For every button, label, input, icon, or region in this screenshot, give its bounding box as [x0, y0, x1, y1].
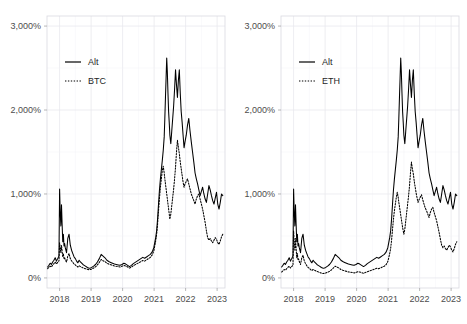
- series-line-Alt: [281, 58, 456, 268]
- y-tick-label-0%: 0%: [28, 273, 41, 283]
- y-axis: 0%1,000%2,000%3,000%: [244, 21, 281, 283]
- y-tick-label-1,000%: 1,000%: [10, 189, 41, 199]
- x-tick-label-2018: 2018: [50, 294, 70, 304]
- series-line-BTC: [48, 140, 223, 269]
- chart-panel-right: 0%1,000%2,000%3,000%20182019202020212022…: [234, 0, 467, 324]
- right-panel-svg: 0%1,000%2,000%3,000%20182019202020212022…: [234, 0, 467, 324]
- legend-label-Alt: Alt: [88, 57, 99, 67]
- x-tick-label-2022: 2022: [409, 294, 429, 304]
- x-axis: 201820192020202120222023: [50, 288, 228, 304]
- x-tick-label-2022: 2022: [176, 294, 196, 304]
- x-tick-label-2023: 2023: [207, 294, 227, 304]
- x-tick-label-2021: 2021: [378, 294, 398, 304]
- x-tick-label-2018: 2018: [283, 294, 303, 304]
- y-tick-label-1,000%: 1,000%: [244, 189, 275, 199]
- y-tick-label-3,000%: 3,000%: [244, 21, 275, 31]
- left-panel-svg: 0%1,000%2,000%3,000%20182019202020212022…: [0, 0, 234, 324]
- legend-label-Alt: Alt: [322, 57, 333, 67]
- x-tick-label-2020: 2020: [113, 294, 133, 304]
- x-axis: 201820192020202120222023: [283, 288, 461, 304]
- data-series-group: [48, 58, 223, 270]
- x-tick-label-2023: 2023: [441, 294, 461, 304]
- gridlines: [47, 16, 225, 288]
- x-tick-label-2019: 2019: [315, 294, 335, 304]
- dual-panel-line-chart-figure: 0%1,000%2,000%3,000%20182019202020212022…: [0, 0, 467, 324]
- gridlines: [281, 16, 459, 288]
- legend-label-BTC: BTC: [88, 76, 107, 86]
- y-axis: 0%1,000%2,000%3,000%: [10, 21, 47, 283]
- legend: AltBTC: [65, 57, 107, 86]
- chart-panel-left: 0%1,000%2,000%3,000%20182019202020212022…: [0, 0, 234, 324]
- x-tick-label-2020: 2020: [346, 294, 366, 304]
- x-tick-label-2019: 2019: [81, 294, 101, 304]
- y-tick-label-2,000%: 2,000%: [244, 105, 275, 115]
- y-tick-label-3,000%: 3,000%: [10, 21, 41, 31]
- x-tick-label-2021: 2021: [144, 294, 164, 304]
- y-tick-label-0%: 0%: [261, 273, 274, 283]
- legend: AltETH: [299, 57, 340, 86]
- series-line-Alt: [48, 58, 223, 268]
- legend-label-ETH: ETH: [322, 76, 340, 86]
- y-tick-label-2,000%: 2,000%: [10, 105, 41, 115]
- data-series-group: [281, 58, 456, 274]
